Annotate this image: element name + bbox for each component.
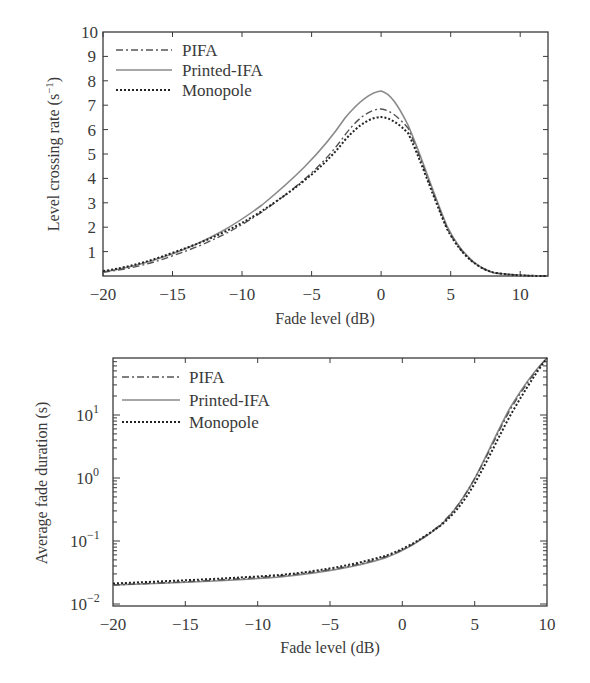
x-tick-label: −10	[229, 285, 256, 304]
x-tick-label: 0	[398, 615, 407, 634]
top-x-tick-labels: −20 −15 −10 −5 0 5 10	[90, 285, 529, 304]
x-tick-label: 0	[377, 285, 386, 304]
y-tick-label: 5	[88, 145, 97, 164]
bottom-y-axis-label: Average fade duration (s)	[33, 402, 51, 565]
x-tick-label: −15	[172, 615, 199, 634]
legend-label-pifa: PIFA	[189, 368, 225, 387]
x-tick-label: −20	[100, 615, 127, 634]
x-tick-label: 5	[470, 615, 479, 634]
y-tick-label: 101	[76, 402, 99, 425]
legend-label-monopole: Monopole	[189, 413, 259, 432]
y-tick-label: 3	[88, 194, 97, 213]
y-tick-label: 4	[88, 169, 97, 188]
y-tick-label: 8	[88, 72, 97, 91]
series-printed-ifa-lcr	[103, 91, 548, 276]
y-tick-label: 2	[88, 218, 97, 237]
y-tick-label: 10−1	[70, 528, 100, 551]
x-tick-label: −20	[90, 285, 117, 304]
x-tick-label: −15	[159, 285, 186, 304]
x-tick-label: 10	[539, 615, 556, 634]
bottom-x-tick-labels: −20 −15 −10 −5 0 5 10	[100, 615, 556, 634]
legend-label-printed-ifa: Printed-IFA	[189, 391, 271, 410]
y-tick-label: 1	[88, 243, 97, 262]
y-tick-label: 10−2	[70, 591, 100, 614]
top-series	[103, 91, 548, 276]
x-tick-label: −10	[244, 615, 271, 634]
top-plot-frame	[103, 32, 548, 276]
series-pifa-lcr	[103, 109, 548, 276]
series-pifa-afd	[113, 358, 547, 585]
bottom-series	[113, 358, 547, 585]
y-tick-label: 10	[81, 23, 98, 42]
y-tick-label: 100	[76, 465, 99, 488]
x-tick-label: 5	[446, 285, 455, 304]
top-chart: −20 −15 −10 −5 0 5 10 1 2 3 4 5 6 7 8 9 …	[43, 23, 548, 328]
bottom-y-tick-labels: 101 100 10−1 10−2	[70, 402, 100, 614]
bottom-legend: PIFA Printed-IFA Monopole	[122, 368, 271, 432]
y-tick-label: 9	[88, 47, 97, 66]
top-x-ticks	[103, 32, 520, 276]
top-x-axis-label: Fade level (dB)	[275, 310, 375, 328]
legend-label-printed-ifa: Printed-IFA	[182, 61, 264, 80]
y-tick-label: 6	[88, 121, 97, 140]
bottom-chart: −20 −15 −10 −5 0 5 10 101 100 10−1 10−2 …	[33, 358, 556, 657]
legend-label-pifa: PIFA	[182, 41, 218, 60]
x-tick-label: −5	[303, 285, 321, 304]
y-tick-label: 7	[88, 96, 97, 115]
series-printed-ifa-afd	[113, 358, 547, 585]
bottom-x-axis-label: Fade level (dB)	[280, 639, 380, 657]
figure: −20 −15 −10 −5 0 5 10 1 2 3 4 5 6 7 8 9 …	[0, 0, 590, 683]
top-y-tick-labels: 1 2 3 4 5 6 7 8 9 10	[81, 23, 98, 262]
top-y-ticks	[103, 56, 548, 251]
top-y-axis-label: Level crossing rate (s−1)	[43, 77, 63, 231]
series-monopole-afd	[113, 358, 547, 584]
series-monopole-lcr	[103, 117, 548, 276]
legend-label-monopole: Monopole	[182, 81, 252, 100]
x-tick-label: 10	[512, 285, 529, 304]
top-legend: PIFA Printed-IFA Monopole	[116, 41, 264, 100]
x-tick-label: −5	[321, 615, 339, 634]
